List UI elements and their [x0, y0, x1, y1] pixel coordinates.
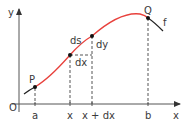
point-q-label: Q [144, 5, 152, 16]
ds-label: ds [70, 35, 82, 46]
origin-label: O [9, 102, 17, 113]
y-axis-label: y [8, 7, 14, 18]
point-q [146, 16, 150, 20]
arc-length-diagram: y O x f P Q ds dy dx a x x + dx b [0, 0, 187, 129]
point-p [33, 85, 37, 89]
point-x-plus-dx [90, 34, 94, 38]
curve-label-f: f [163, 17, 167, 28]
tick-label-a: a [32, 110, 38, 121]
tick-label-x: x [67, 110, 73, 121]
tick-label-x-plus-dx: x + dx [82, 110, 115, 121]
curve-right-segment [148, 18, 163, 31]
point-p-label: P [29, 74, 35, 85]
dx-label: dx [75, 57, 87, 68]
point-x [68, 53, 72, 57]
tick-label-b: b [145, 110, 151, 121]
dy-label: dy [96, 39, 108, 50]
x-axis-label: x [173, 110, 179, 121]
